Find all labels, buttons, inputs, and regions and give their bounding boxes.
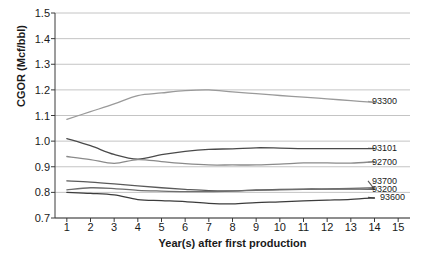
x-axis-tick-label: 10 [268,221,292,233]
x-axis-tick-label: 14 [363,221,387,233]
x-axis-tick-label: 5 [150,221,174,233]
series-leader-93600 [368,197,375,198]
series-line-93600 [67,192,375,204]
x-axis-tick-label: 13 [339,221,363,233]
x-axis-tick-label: 3 [102,221,126,233]
series-line-92700 [67,157,375,166]
series-label-92700: 92700 [372,157,397,167]
series-line-93101 [67,139,375,160]
x-axis-tick-label: 15 [386,221,410,233]
x-axis-tick-label: 9 [244,221,268,233]
x-axis-label: Year(s) after first production [55,237,410,249]
x-axis-tick-label: 11 [292,221,316,233]
x-axis-tick-label: 1 [55,221,79,233]
x-axis-tick-label: 12 [315,221,339,233]
chart-figure: CGOR (Mcf/bbl) 0.70.80.91.01.11.21.31.41… [0,0,429,258]
x-axis-tick-label: 8 [221,221,245,233]
series-line-93300 [67,90,375,120]
x-axis-tick-label: 6 [173,221,197,233]
x-axis-tick-label: 4 [126,221,150,233]
x-axis-tick-label: 2 [79,221,103,233]
plot-canvas [0,0,429,258]
series-label-93600: 93600 [380,192,405,202]
series-label-93101: 93101 [372,143,397,153]
series-label-93300: 93300 [372,96,397,106]
series-line-93200 [67,188,375,192]
x-axis-tick-label: 7 [197,221,221,233]
